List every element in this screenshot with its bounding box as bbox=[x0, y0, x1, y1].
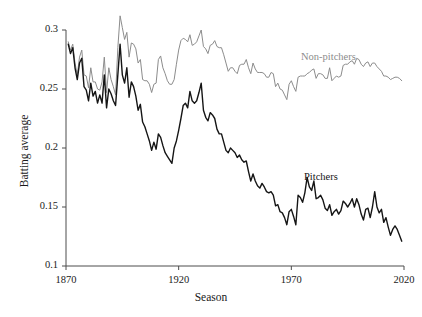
y-tick-label: 0.25 bbox=[4, 83, 58, 94]
pitchers-series-label: Pitchers bbox=[304, 172, 338, 183]
non-pitchers-series-label: Non-pitchers bbox=[301, 52, 356, 63]
x-tick-label: 1970 bbox=[261, 275, 321, 286]
x-axis-ticks bbox=[66, 266, 404, 270]
y-tick-label: 0.2 bbox=[4, 142, 58, 153]
x-tick-label: 2020 bbox=[374, 275, 422, 286]
chart-plot-area bbox=[0, 0, 422, 317]
y-tick-label: 0.15 bbox=[4, 201, 58, 212]
batting-average-chart: Batting average Season Non-pitchers Pitc… bbox=[0, 0, 422, 317]
y-tick-label: 0.1 bbox=[4, 260, 58, 271]
series-line-pitchers bbox=[68, 44, 402, 241]
x-axis-label: Season bbox=[0, 291, 422, 303]
x-tick-label: 1920 bbox=[149, 275, 209, 286]
y-tick-label: 0.3 bbox=[4, 24, 58, 35]
x-tick-label: 1870 bbox=[36, 275, 96, 286]
y-axis-ticks bbox=[62, 30, 66, 266]
